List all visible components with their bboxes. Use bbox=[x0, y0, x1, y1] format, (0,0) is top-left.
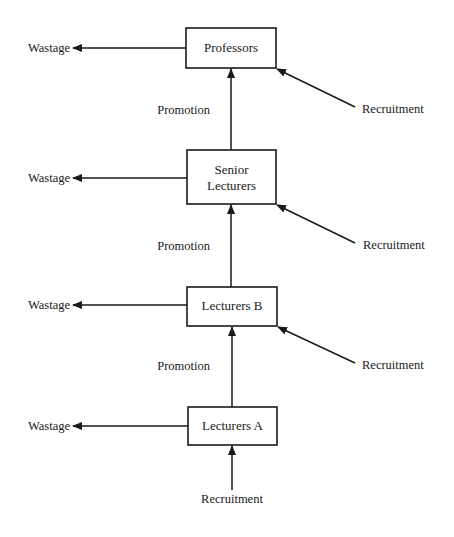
senior-lecturers-label-line1: Senior bbox=[215, 162, 250, 177]
wastage-label-professors: Wastage bbox=[28, 41, 70, 55]
promotion-label-1: Promotion bbox=[157, 103, 211, 117]
promotion-label-2: Promotion bbox=[157, 239, 211, 253]
senior-lecturers-label-line2: Lecturers bbox=[207, 178, 256, 193]
recruitment-label-lecturers-a: Recruitment bbox=[201, 492, 263, 506]
node-lecturers-a: Lecturers A bbox=[188, 407, 277, 445]
wastage-label-lecturers-a: Wastage bbox=[28, 419, 70, 433]
professors-label: Professors bbox=[204, 40, 258, 55]
promotion-label-3: Promotion bbox=[157, 359, 211, 373]
recruitment-label-lecturers-b: Recruitment bbox=[362, 358, 424, 372]
recruitment-arrow-lecturers-b bbox=[278, 327, 355, 363]
wastage-label-lecturers-b: Wastage bbox=[28, 298, 70, 312]
node-senior-lecturers: Senior Lecturers bbox=[187, 150, 276, 204]
recruitment-label-professors: Recruitment bbox=[362, 102, 424, 116]
wastage-label-senior-lecturers: Wastage bbox=[28, 171, 70, 185]
node-lecturers-b: Lecturers B bbox=[187, 287, 277, 326]
recruitment-label-senior-lecturers: Recruitment bbox=[363, 238, 425, 252]
recruitment-arrow-professors bbox=[277, 69, 355, 107]
lecturers-b-label: Lecturers B bbox=[201, 298, 262, 313]
senior-lecturers-box bbox=[187, 150, 276, 204]
lecturers-a-label: Lecturers A bbox=[202, 418, 264, 433]
node-professors: Professors bbox=[186, 28, 276, 68]
recruitment-arrow-senior-lecturers bbox=[277, 205, 355, 243]
staff-flow-diagram: Professors Wastage Recruitment Promotion… bbox=[0, 0, 454, 537]
